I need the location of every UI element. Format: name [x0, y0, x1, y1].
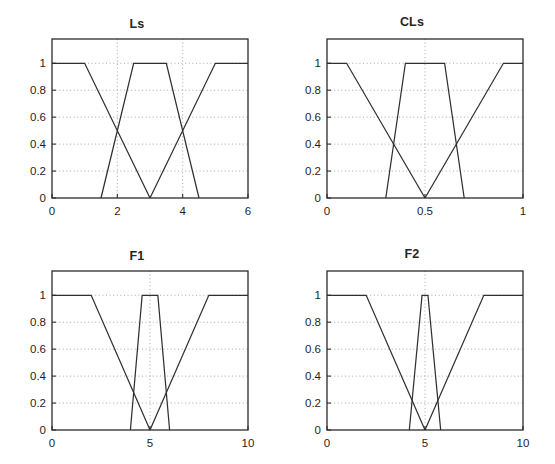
- y-tick-label: 0.6: [30, 343, 46, 355]
- axes-ls: 00.20.40.60.810246: [13, 31, 261, 231]
- membership-curve-medium: [409, 295, 440, 430]
- y-tick-label: 0: [315, 424, 321, 436]
- panel-f2: F2 00.20.40.60.810510: [288, 247, 536, 464]
- x-tick-label: 2: [114, 205, 120, 217]
- y-tick-label: 0.4: [305, 370, 322, 382]
- membership-curve-medium: [130, 295, 169, 430]
- x-tick-label: 0: [324, 205, 330, 217]
- membership-curve-low: [52, 295, 150, 430]
- x-tick-label: 0.5: [417, 205, 433, 217]
- panel-f1: F1 00.20.40.60.810510: [13, 249, 261, 464]
- panel-title-ls: Ls: [13, 17, 261, 31]
- x-tick-label: 1: [520, 205, 526, 217]
- panel-cls: CLs 00.20.40.60.8100.51: [288, 15, 536, 232]
- membership-curve-low: [327, 295, 425, 430]
- membership-curve-medium: [101, 63, 199, 198]
- membership-curve-low: [327, 63, 425, 198]
- y-tick-label: 1: [315, 57, 321, 69]
- y-tick-label: 0.2: [305, 165, 321, 177]
- y-tick-label: 1: [315, 289, 321, 301]
- panel-title-f1: F1: [13, 249, 261, 263]
- membership-curve-high: [150, 295, 248, 430]
- membership-curve-low: [52, 63, 150, 198]
- y-tick-label: 0.6: [305, 343, 321, 355]
- axes-f2: 00.20.40.60.810510: [288, 263, 536, 463]
- x-tick-label: 10: [242, 437, 255, 449]
- plot-svg-cls: 00.20.40.60.8100.51: [288, 31, 536, 231]
- y-tick-label: 0.8: [305, 84, 321, 96]
- y-tick-label: 0.2: [305, 397, 321, 409]
- y-tick-label: 0: [315, 192, 321, 204]
- x-tick-label: 10: [517, 437, 530, 449]
- y-tick-label: 0.2: [30, 165, 46, 177]
- figure-canvas: Ls 00.20.40.60.810246 CLs 00.20.40.60.81…: [0, 0, 555, 464]
- plot-svg-f2: 00.20.40.60.810510: [288, 263, 536, 463]
- y-tick-label: 0.8: [305, 316, 321, 328]
- y-tick-label: 0: [40, 192, 46, 204]
- y-tick-label: 1: [40, 57, 46, 69]
- plot-svg-f1: 00.20.40.60.810510: [13, 263, 261, 463]
- x-tick-label: 0: [49, 205, 55, 217]
- x-tick-label: 0: [49, 437, 55, 449]
- y-tick-label: 0.6: [30, 111, 46, 123]
- x-tick-label: 0: [324, 437, 330, 449]
- panel-ls: Ls 00.20.40.60.810246: [13, 17, 261, 232]
- y-tick-label: 0.4: [30, 138, 47, 150]
- x-tick-label: 5: [422, 437, 428, 449]
- x-tick-label: 5: [147, 437, 153, 449]
- y-tick-label: 0.6: [305, 111, 321, 123]
- membership-curve-medium: [386, 63, 464, 198]
- axes-cls: 00.20.40.60.8100.51: [288, 31, 536, 231]
- y-tick-label: 0.8: [30, 316, 46, 328]
- y-tick-label: 0: [40, 424, 46, 436]
- axes-f1: 00.20.40.60.810510: [13, 263, 261, 463]
- y-tick-label: 1: [40, 289, 46, 301]
- membership-curve-high: [150, 63, 248, 198]
- panel-title-cls: CLs: [288, 15, 536, 29]
- membership-curve-high: [425, 295, 523, 430]
- plot-svg-ls: 00.20.40.60.810246: [13, 31, 261, 231]
- panel-title-f2: F2: [288, 247, 536, 261]
- y-tick-label: 0.4: [30, 370, 47, 382]
- y-tick-label: 0.2: [30, 397, 46, 409]
- membership-curve-high: [425, 63, 523, 198]
- x-tick-label: 6: [245, 205, 251, 217]
- y-tick-label: 0.8: [30, 84, 46, 96]
- x-tick-label: 4: [179, 205, 186, 217]
- y-tick-label: 0.4: [305, 138, 322, 150]
